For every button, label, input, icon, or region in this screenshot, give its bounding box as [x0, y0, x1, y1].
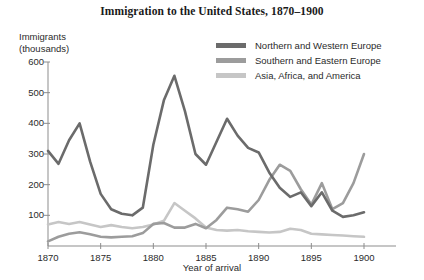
series-line-2 — [48, 203, 364, 237]
plot-area — [48, 62, 364, 246]
plot-svg — [48, 62, 364, 246]
chart-figure: Immigration to the United States, 1870–1… — [0, 0, 424, 280]
x-axis-label: Year of arrival — [0, 262, 424, 273]
